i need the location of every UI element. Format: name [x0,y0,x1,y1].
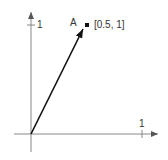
vector-diagram [0,0,168,160]
vector-arrow [31,29,83,134]
point-a-label: A [70,18,77,28]
x-tick-label: 1 [139,119,145,129]
point-a-marker [85,23,89,27]
point-a-coords: [0.5, 1] [94,20,125,30]
y-tick-label: 1 [37,20,43,30]
